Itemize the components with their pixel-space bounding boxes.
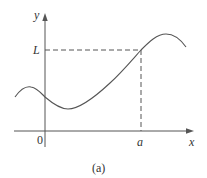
figure-caption: (a) — [92, 161, 105, 175]
limit-diagram: y L 0 a x (a) — [0, 0, 207, 178]
x-axis-label: x — [188, 135, 195, 149]
L-mark-label: L — [32, 43, 40, 57]
a-mark-label: a — [137, 135, 143, 149]
x-axis-arrow-icon — [186, 128, 194, 133]
function-curve — [15, 34, 186, 109]
y-axis-arrow-icon — [42, 13, 47, 21]
y-axis-label: y — [33, 8, 40, 22]
origin-label: 0 — [37, 133, 43, 147]
